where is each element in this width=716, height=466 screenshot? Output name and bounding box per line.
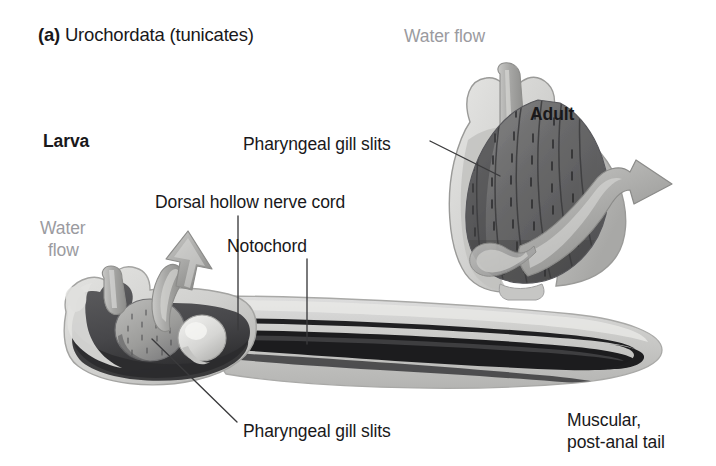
- notochord-label: Notochord: [227, 236, 307, 257]
- urochordata-illustration: [0, 0, 716, 466]
- muscular-post-anal-tail-line1: Muscular,: [567, 410, 641, 431]
- pharyngeal-gill-slits-adult-label: Pharyngeal gill slits: [243, 134, 391, 155]
- water-flow-larva-line1: Water: [40, 218, 86, 239]
- adult-tunicate: [449, 63, 672, 300]
- panel-title: (a) Urochordata (tunicates): [38, 24, 254, 47]
- figure-panel-a: (a) Urochordata (tunicates) Water flow A…: [0, 0, 716, 466]
- adult-label: Adult: [530, 104, 574, 125]
- pharyngeal-gill-slits-larva-label: Pharyngeal gill slits: [243, 421, 391, 442]
- panel-letter: (a): [38, 24, 60, 45]
- adult-base-stalk: [499, 284, 544, 300]
- larva-label: Larva: [43, 131, 89, 152]
- water-flow-larva-line2: flow: [48, 240, 79, 261]
- muscular-post-anal-tail-line2: post-anal tail: [567, 432, 665, 453]
- panel-title-text: Urochordata (tunicates): [60, 24, 254, 45]
- water-flow-adult-label: Water flow: [404, 26, 485, 47]
- dorsal-hollow-nerve-cord-label: Dorsal hollow nerve cord: [155, 192, 345, 213]
- larva-stomach-highlight: [185, 322, 207, 340]
